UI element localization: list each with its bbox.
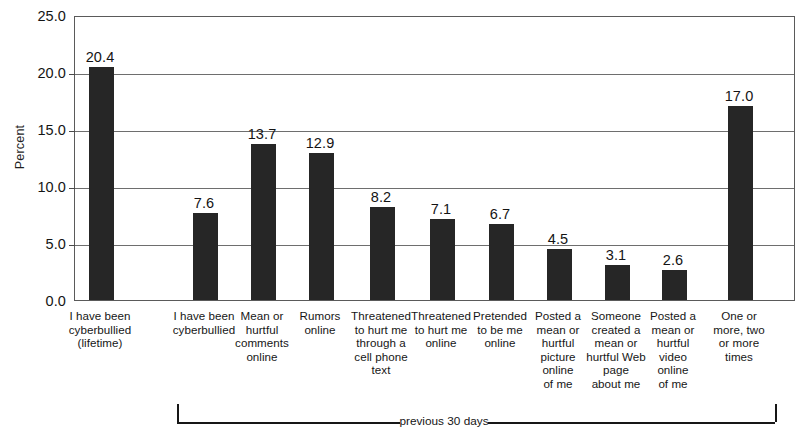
bar-value-label: 7.6 <box>194 195 214 211</box>
x-axis-category-label: I have beencyberbullied <box>171 309 237 336</box>
y-axis-tick-mark <box>69 74 75 75</box>
x-axis-category-label: One ormore, twoor moretimes <box>706 309 772 363</box>
category-label-line: Posted a <box>640 309 706 323</box>
bracket-line-right-segment <box>488 422 775 424</box>
bar-chart: Percent 0.05.010.015.020.025.0 I have be… <box>0 0 807 435</box>
category-label-line: hurtful <box>229 323 295 337</box>
x-axis-category-label: Threatenedto hurt methrough acell phonet… <box>348 309 414 377</box>
x-axis-category-label: Pretendedto be meonline <box>467 309 533 350</box>
bar <box>489 224 514 300</box>
category-label-line: online <box>229 350 295 364</box>
category-label-line: to hurt me <box>348 323 414 337</box>
category-label-line: Rumors <box>287 309 353 323</box>
category-label-line: comments <box>229 336 295 350</box>
y-axis-tick-label: 5.0 <box>20 236 66 252</box>
category-label-line: to be me <box>467 323 533 337</box>
category-label-line: more, two <box>706 323 772 337</box>
gridline <box>75 131 794 132</box>
bar <box>309 153 334 300</box>
y-axis-tick-mark <box>69 131 75 132</box>
category-label-line: hurtful <box>525 336 591 350</box>
category-label-line: Pretended <box>467 309 533 323</box>
category-label-line: hurtful <box>640 336 706 350</box>
category-label-line: cyberbullied <box>171 323 237 337</box>
bracket-left-tick <box>177 404 179 422</box>
x-axis-category-label: Posted amean orhurtfulvideoonlineof me <box>640 309 706 391</box>
bar-value-label: 7.1 <box>431 201 451 217</box>
category-label-line: Mean or <box>229 309 295 323</box>
category-label-line: video <box>640 350 706 364</box>
x-axis-category-label: I have beencyberbullied(lifetime) <box>67 309 133 350</box>
x-axis-category-label: Threatenedto hurt meonline <box>408 309 474 350</box>
y-axis-tick-mark <box>69 245 75 246</box>
y-axis-tick-label: 20.0 <box>20 65 66 81</box>
category-label-line: online <box>525 363 591 377</box>
bar <box>430 219 455 300</box>
gridline <box>75 74 794 75</box>
category-label-line: I have been <box>67 309 133 323</box>
bar-value-label: 13.7 <box>248 126 277 142</box>
bar <box>193 213 218 300</box>
bar <box>251 144 276 300</box>
category-label-line: online <box>287 323 353 337</box>
y-axis-tick-label: 10.0 <box>20 179 66 195</box>
category-label-line: picture <box>525 350 591 364</box>
y-axis-tick-label: 15.0 <box>20 122 66 138</box>
category-label-line: cell phone <box>348 350 414 364</box>
bar-value-label: 4.5 <box>548 231 568 247</box>
category-label-line: of me <box>525 377 591 391</box>
bar-value-label: 20.4 <box>86 49 115 65</box>
category-label-line: through a <box>348 336 414 350</box>
y-axis-tick-label: 25.0 <box>20 8 66 24</box>
bracket-line-left-segment <box>177 422 400 424</box>
bar <box>728 106 753 300</box>
bar <box>89 67 114 300</box>
bar-value-label: 8.2 <box>371 189 391 205</box>
category-label-line: I have been <box>171 309 237 323</box>
bar-value-label: 12.9 <box>306 135 335 151</box>
category-label-line: Threatened <box>408 309 474 323</box>
category-label-line: online <box>467 336 533 350</box>
category-label-line: One or <box>706 309 772 323</box>
bar <box>370 207 395 300</box>
y-axis-tick-label: 0.0 <box>20 293 66 309</box>
category-label-line: (lifetime) <box>67 336 133 350</box>
category-label-line: Threatened <box>348 309 414 323</box>
bracket-label: previous 30 days <box>399 414 488 428</box>
gridline <box>75 188 794 189</box>
bracket-right-tick <box>775 404 777 422</box>
category-label-line: cyberbullied <box>67 323 133 337</box>
category-label-line: or more <box>706 336 772 350</box>
x-axis-category-label: Rumorsonline <box>287 309 353 336</box>
bar-value-label: 3.1 <box>606 247 626 263</box>
category-label-line: mean or <box>640 323 706 337</box>
bar-value-label: 17.0 <box>725 88 754 104</box>
category-label-line: to hurt me <box>408 323 474 337</box>
category-label-line: Posted a <box>525 309 591 323</box>
bar <box>605 265 630 300</box>
bar-value-label: 6.7 <box>490 206 510 222</box>
category-label-line: times <box>706 350 772 364</box>
bar <box>662 270 687 300</box>
category-label-line: mean or <box>525 323 591 337</box>
y-axis-tick-mark <box>69 188 75 189</box>
plot-area <box>74 16 795 301</box>
bar <box>547 249 572 300</box>
x-axis-category-label: Posted amean orhurtfulpictureonlineof me <box>525 309 591 391</box>
bar-value-label: 2.6 <box>663 252 683 268</box>
y-axis-tick-labels: 0.05.010.015.020.025.0 <box>14 0 66 435</box>
category-label-line: online <box>408 336 474 350</box>
x-axis-category-label: Mean orhurtfulcommentsonline <box>229 309 295 363</box>
category-label-line: of me <box>640 377 706 391</box>
category-label-line: online <box>640 363 706 377</box>
category-label-line: text <box>348 363 414 377</box>
